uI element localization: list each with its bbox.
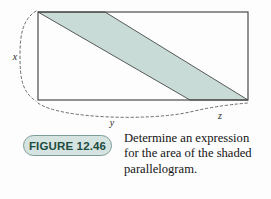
figure-number-badge: FIGURE 12.46 (23, 135, 112, 156)
base-brace-dashed (38, 103, 248, 117)
figure-container: x y z FIGURE 12.46 Determine an expressi… (0, 0, 271, 199)
dimension-label-y: y (109, 117, 115, 128)
dimension-label-x: x (12, 51, 18, 62)
shaded-parallelogram (38, 12, 248, 100)
dimension-label-z: z (217, 110, 222, 121)
geometry-diagram: x y z (0, 0, 271, 128)
figure-caption-block: FIGURE 12.46 Determine an expression for… (0, 128, 271, 199)
diagram-svg: x y z (0, 0, 271, 128)
caption-line-2: for the area of the shaded (124, 146, 270, 161)
figure-caption-text: Determine an expression for the area of … (124, 131, 270, 177)
caption-line-1: Determine an expression (124, 131, 270, 146)
caption-line-3: parallelogram. (124, 162, 270, 177)
height-brace-dashed (20, 11, 36, 101)
figure-number-label: FIGURE 12.46 (29, 140, 106, 152)
